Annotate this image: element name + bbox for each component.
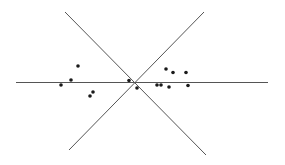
- diagonal-line-ascending: [69, 12, 204, 150]
- data-point: [167, 85, 171, 89]
- data-point: [127, 79, 131, 83]
- data-point: [91, 90, 95, 94]
- data-point: [59, 83, 63, 87]
- data-point: [76, 64, 80, 68]
- data-point: [171, 71, 175, 75]
- data-point: [159, 83, 163, 87]
- data-point: [69, 78, 73, 82]
- line-intersection-diagram: [0, 0, 285, 165]
- data-point: [184, 71, 188, 75]
- data-point: [155, 83, 159, 87]
- data-point: [186, 84, 190, 88]
- lines-group: [16, 12, 268, 155]
- diagonal-line-descending: [65, 12, 206, 155]
- data-point: [164, 67, 168, 71]
- data-point: [135, 86, 139, 90]
- data-point: [88, 94, 92, 98]
